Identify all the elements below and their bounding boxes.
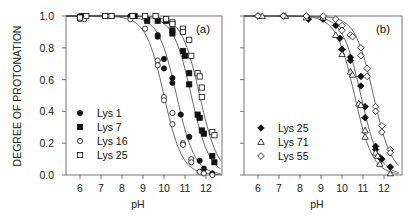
legend-marker	[77, 138, 82, 143]
data-point	[387, 164, 394, 171]
plot-frame	[244, 16, 402, 175]
data-point	[210, 153, 215, 158]
x-tick-label: 8	[119, 182, 125, 194]
data-point	[103, 13, 108, 18]
y-tick-label: 0.0	[39, 169, 54, 181]
y-tick-label: 0.8	[39, 42, 54, 54]
data-point	[143, 13, 148, 18]
data-point	[161, 98, 166, 103]
plot-frame	[66, 16, 222, 175]
data-point	[379, 122, 386, 129]
data-point	[161, 66, 166, 71]
data-point	[212, 133, 217, 138]
legend-label: Lys 16	[97, 135, 128, 147]
fit-curve	[65, 16, 220, 169]
data-point	[164, 17, 169, 22]
data-point	[155, 63, 160, 68]
data-point	[155, 34, 160, 39]
panel-b: 6789101112pH(b)Lys 25Lys 71Lys 55	[240, 13, 402, 210]
legend-label: Lys 25	[278, 122, 309, 134]
data-point	[180, 142, 185, 147]
legend-label: Lys 71	[278, 136, 309, 148]
y-axis-label: DEGREE OF PROTONATION	[11, 26, 23, 167]
data-point	[358, 45, 365, 52]
y-tick-label: 0.4	[39, 105, 54, 117]
data-point	[199, 85, 204, 90]
legend-label: Lys 25	[97, 149, 128, 161]
data-point	[178, 112, 183, 117]
x-tick-label: 6	[77, 182, 83, 194]
x-tick-label: 11	[358, 182, 369, 194]
data-point	[197, 74, 202, 79]
x-tick-label: 8	[297, 182, 303, 194]
legend-marker	[77, 152, 82, 157]
fit-curve	[65, 16, 220, 175]
data-point	[170, 122, 175, 127]
data-point	[143, 26, 148, 31]
data-point	[358, 73, 365, 80]
data-point	[182, 53, 187, 58]
data-point	[170, 80, 175, 85]
panel-label: (a)	[196, 23, 210, 35]
data-point	[199, 94, 204, 99]
legend-label: Lys 55	[278, 150, 309, 162]
legend-label: Lys 1	[97, 107, 122, 119]
data-point	[187, 134, 192, 139]
series-lys-55	[255, 13, 394, 156]
data-point	[339, 27, 346, 34]
data-point	[379, 129, 386, 136]
data-point	[189, 160, 194, 165]
x-tick-label: 10	[158, 182, 170, 194]
data-point	[358, 83, 365, 90]
data-point	[364, 65, 371, 72]
data-point	[362, 114, 369, 121]
legend-marker	[77, 124, 82, 129]
data-point	[212, 160, 217, 165]
data-point	[197, 158, 202, 163]
x-tick-label: 7	[98, 182, 104, 194]
x-tick-label: 6	[255, 182, 261, 194]
protonation-chart: DEGREE OF PROTONATION 6789101112pH0.00.2…	[0, 0, 417, 224]
panel-a: 6789101112pH0.00.20.40.60.81.0(a)Lys 1Ly…	[39, 10, 222, 210]
legend-marker	[77, 110, 82, 115]
data-point	[333, 32, 339, 38]
legend-marker	[258, 125, 265, 132]
legend-marker	[258, 153, 265, 160]
data-point	[130, 13, 135, 18]
data-point	[153, 13, 158, 18]
x-axis-label: pH	[131, 198, 144, 210]
data-point	[210, 172, 215, 177]
data-point	[170, 110, 175, 115]
data-point	[187, 37, 192, 42]
fit-curve	[65, 16, 220, 161]
data-point	[170, 31, 175, 36]
data-point	[109, 13, 114, 18]
data-point	[201, 131, 206, 136]
data-point	[180, 29, 185, 34]
legend: Lys 25Lys 71Lys 55	[258, 122, 309, 162]
x-tick-label: 9	[140, 182, 146, 194]
x-tick-label: 11	[180, 182, 191, 194]
panel-label: (b)	[376, 23, 390, 35]
legend-marker	[258, 139, 264, 145]
data-point	[358, 52, 365, 59]
data-point	[201, 171, 206, 176]
data-point	[77, 15, 82, 20]
data-point	[362, 134, 368, 140]
data-point	[189, 53, 194, 58]
data-point	[84, 13, 89, 18]
fit-curve	[65, 16, 220, 174]
data-point	[197, 115, 202, 120]
legend: Lys 1Lys 7Lys 16Lys 25	[77, 107, 127, 161]
x-tick-label: 12	[200, 182, 212, 194]
data-point	[170, 21, 175, 26]
data-point	[187, 82, 192, 87]
y-tick-label: 0.2	[39, 137, 54, 149]
y-tick-label: 0.6	[39, 74, 54, 86]
x-tick-label: 7	[276, 182, 282, 194]
x-tick-label: 9	[318, 182, 324, 194]
legend-label: Lys 7	[97, 121, 122, 133]
data-point	[161, 56, 166, 61]
data-point	[187, 71, 192, 76]
x-axis-label: pH	[310, 198, 323, 210]
